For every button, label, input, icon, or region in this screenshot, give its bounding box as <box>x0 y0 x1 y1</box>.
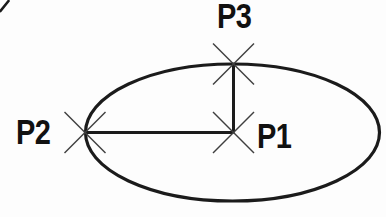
label-p1: P1 <box>257 116 291 155</box>
label-p2: P2 <box>16 112 50 151</box>
ellipse-construction-diagram: P2 P1 P3 <box>0 0 386 217</box>
label-p3: P3 <box>217 0 251 36</box>
diagram-canvas: P2 P1 P3 <box>0 0 386 217</box>
